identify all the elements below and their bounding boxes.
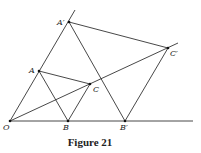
segments bbox=[10, 10, 193, 121]
geometry-figure: OBB′AA′CC′ Figure 21 bbox=[0, 0, 201, 153]
point-o bbox=[9, 120, 12, 123]
point-b bbox=[67, 120, 70, 123]
point-a bbox=[38, 70, 41, 73]
label-b: B bbox=[62, 123, 69, 132]
ray-oa bbox=[10, 10, 75, 121]
segment-ac bbox=[39, 71, 90, 84]
point-cp bbox=[167, 47, 170, 50]
label-ap: A′ bbox=[56, 18, 65, 27]
segment-bc bbox=[68, 84, 90, 121]
ray-oc bbox=[10, 43, 178, 121]
segment-apcp bbox=[69, 22, 168, 48]
label-o: O bbox=[3, 123, 10, 132]
figure-caption: Figure 21 bbox=[68, 136, 113, 148]
point-ap bbox=[68, 21, 71, 24]
segment-bpcp bbox=[125, 48, 168, 121]
label-cp: C′ bbox=[170, 49, 178, 58]
point-bp bbox=[124, 120, 127, 123]
label-bp: B′ bbox=[119, 123, 128, 132]
label-a: A bbox=[28, 66, 35, 75]
point-c bbox=[89, 83, 92, 86]
label-c: C bbox=[93, 85, 99, 94]
